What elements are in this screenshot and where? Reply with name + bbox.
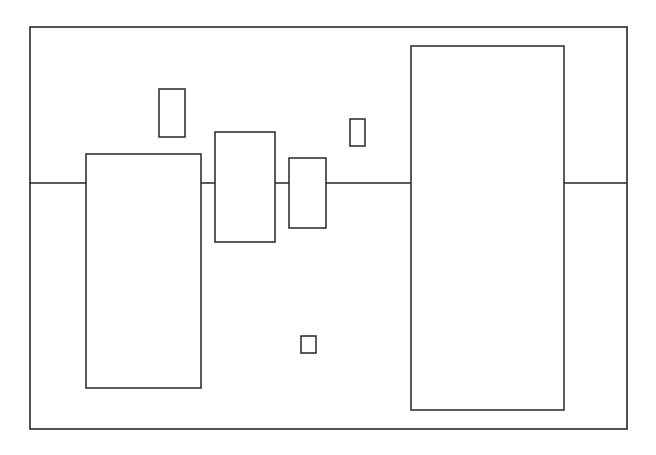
data-box-5	[350, 119, 365, 146]
data-box-1	[86, 154, 201, 388]
data-box-6	[411, 46, 564, 410]
technical-diagram	[0, 0, 656, 455]
data-box-2	[159, 89, 185, 137]
data-box-4	[289, 158, 326, 228]
figure-canvas	[0, 0, 656, 455]
data-box-3	[215, 132, 275, 242]
data-box-7	[301, 336, 316, 353]
